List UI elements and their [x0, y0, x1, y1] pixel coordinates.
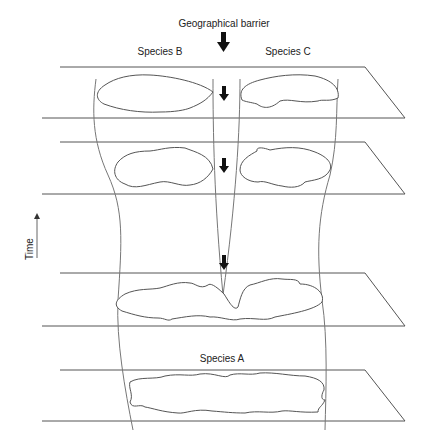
species-c-label: Species C [265, 46, 311, 57]
barrier-arrow [217, 32, 230, 52]
species-population-plane-3-splitting [116, 279, 322, 321]
arrow-up-icon [34, 213, 40, 219]
species-c-population-plane-1 [241, 75, 338, 108]
species-b-label: Species B [137, 46, 182, 57]
barrier-arrow-plane-2 [219, 158, 229, 173]
speciation-diagram: Time Geographical barrier Species B Spec… [0, 0, 428, 444]
species-c-population-plane-2 [240, 148, 331, 188]
species-a-label: Species A [200, 353, 245, 364]
species-b-population-plane-2 [115, 147, 213, 186]
barrier-label: Geographical barrier [178, 18, 270, 29]
barrier-arrow-plane-1 [219, 86, 229, 101]
time-axis: Time [24, 213, 40, 260]
species-b-population-plane-1 [97, 75, 213, 112]
species-a-population-plane-4 [130, 373, 325, 413]
time-axis-label: Time [24, 238, 35, 260]
